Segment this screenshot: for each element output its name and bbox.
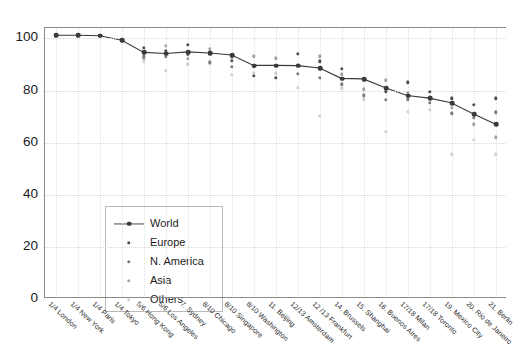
- vertical-gridline: [276, 28, 277, 298]
- world-data-point: [406, 93, 411, 98]
- legend-item-n-america[interactable]: N. America: [112, 252, 216, 271]
- y-tick-label: 60: [4, 135, 38, 149]
- vertical-gridline: [210, 28, 211, 298]
- legend-dot: [127, 279, 130, 282]
- legend-marker-icon: [112, 274, 146, 288]
- legend-marker-icon: [112, 217, 146, 231]
- vertical-gridline: [144, 28, 145, 298]
- world-data-point: [120, 38, 125, 43]
- x-tick-label: 19. Mexico City: [443, 300, 485, 340]
- world-data-point: [230, 53, 235, 58]
- world-data-point: [494, 122, 499, 127]
- vertical-gridline: [452, 28, 453, 298]
- vertical-gridline: [430, 28, 431, 298]
- world-data-point: [450, 101, 455, 106]
- vertical-gridline: [56, 28, 57, 298]
- legend-marker-icon: [112, 255, 146, 269]
- vertical-gridline: [232, 28, 233, 298]
- x-axis-tick-labels: 1/4 London1/4 New York1/4 Paris1/4 Tokyo…: [44, 300, 506, 356]
- vertical-gridline: [474, 28, 475, 298]
- world-data-point: [208, 51, 213, 56]
- x-tick-label: 8/10 Singapore: [223, 300, 265, 340]
- legend-item-europe[interactable]: Europe: [112, 233, 216, 252]
- legend-item-world[interactable]: World: [112, 214, 216, 233]
- y-axis-tick-labels: 020406080100: [0, 27, 38, 298]
- legend-dot: [127, 241, 130, 244]
- plot-area: WorldEuropeN. AmericaAsiaOthers: [44, 27, 506, 298]
- legend-label: World: [146, 218, 179, 229]
- vertical-gridline: [364, 28, 365, 298]
- vertical-gridline: [386, 28, 387, 298]
- legend-item-asia[interactable]: Asia: [112, 271, 216, 290]
- world-data-point: [164, 51, 169, 56]
- world-data-point: [142, 50, 147, 55]
- x-axis-line: [44, 297, 506, 298]
- world-data-point: [296, 63, 301, 68]
- legend-label: Asia: [146, 275, 171, 286]
- y-tick-label: 100: [4, 31, 38, 45]
- world-data-point: [318, 66, 323, 71]
- y-tick-label: 20: [4, 239, 38, 253]
- vertical-gridline: [78, 28, 79, 298]
- world-data-point: [274, 63, 279, 68]
- vertical-gridline: [188, 28, 189, 298]
- chart-figure: 020406080100 WorldEuropeN. AmericaAsiaOt…: [0, 0, 516, 356]
- world-data-point: [76, 33, 81, 38]
- x-tick-label: 5/6 Hong Kong: [135, 300, 176, 339]
- legend-label: N. America: [146, 256, 204, 267]
- y-tick-label: 0: [4, 291, 38, 305]
- vertical-gridline: [100, 28, 101, 298]
- world-data-point: [428, 96, 433, 101]
- y-tick-label: 80: [4, 83, 38, 97]
- legend-dot: [127, 260, 130, 263]
- vertical-gridline: [408, 28, 409, 298]
- legend-dot: [127, 221, 132, 226]
- world-data-point: [98, 34, 103, 39]
- world-data-point: [54, 33, 59, 38]
- world-data-point: [252, 63, 257, 68]
- vertical-gridline: [254, 28, 255, 298]
- vertical-gridline: [298, 28, 299, 298]
- y-tick-label: 40: [4, 187, 38, 201]
- world-data-point: [384, 86, 389, 91]
- vertical-gridline: [496, 28, 497, 298]
- world-data-point: [340, 76, 345, 81]
- vertical-gridline: [122, 28, 123, 298]
- world-data-point: [472, 112, 477, 117]
- world-data-point: [362, 77, 367, 82]
- world-data-point: [186, 50, 191, 55]
